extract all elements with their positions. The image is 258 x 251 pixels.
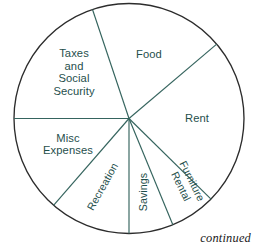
pie-slice-label-rent: Rent bbox=[185, 112, 210, 124]
pie-slice-label-furniture-rental: FurnitureRental bbox=[167, 159, 208, 209]
pie-label-line: Misc bbox=[56, 131, 80, 143]
pie-label-line: Savings bbox=[137, 173, 149, 211]
pie-slice-divider bbox=[129, 119, 173, 225]
pie-slice-label-misc-expenses: MiscExpenses bbox=[43, 131, 93, 156]
pie-label-line: and bbox=[65, 59, 84, 71]
pie-label-line: Taxes bbox=[59, 46, 89, 58]
pie-label-line: Food bbox=[136, 48, 162, 60]
pie-slice-label-recreation: Recreation bbox=[84, 161, 120, 213]
pie-label-line: Social bbox=[58, 72, 89, 84]
continued-footnote: continued bbox=[200, 231, 251, 246]
pie-label-line: Security bbox=[53, 85, 95, 97]
pie-label-line: Recreation bbox=[84, 161, 120, 213]
pie-slice-label-food: Food bbox=[136, 48, 162, 60]
pie-slice-label-taxes-and-social-security: TaxesandSocialSecurity bbox=[53, 46, 95, 97]
pie-slice-divider bbox=[93, 9, 129, 118]
pie-label-line: Rent bbox=[185, 112, 210, 124]
pie-label-line: Expenses bbox=[43, 144, 93, 156]
pie-slice-label-savings: Savings bbox=[137, 173, 149, 211]
pie-chart-figure: FoodRentFurnitureRentalSavingsRecreation… bbox=[0, 0, 258, 251]
pie-chart-svg: FoodRentFurnitureRentalSavingsRecreation… bbox=[0, 0, 258, 251]
